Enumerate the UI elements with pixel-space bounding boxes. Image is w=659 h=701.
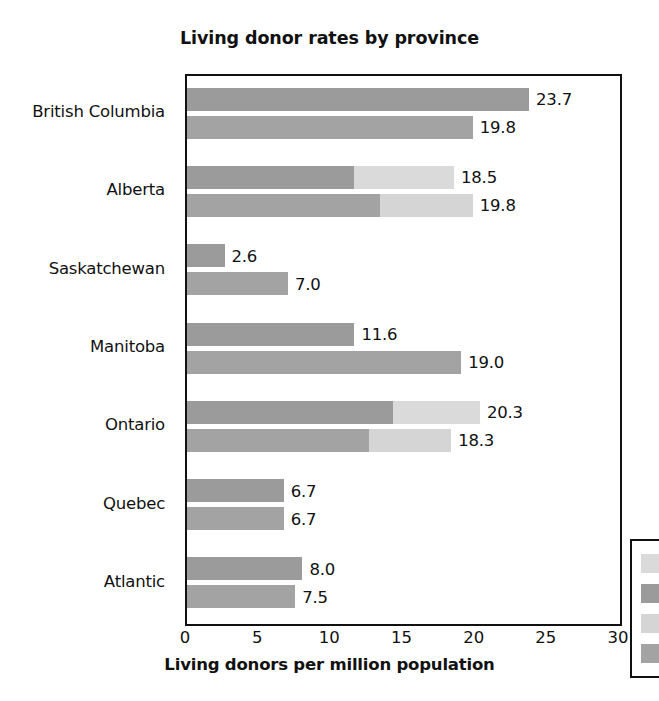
y-axis-label-manitoba: Manitoba	[0, 337, 165, 356]
bar-segment-liver-2016	[369, 429, 451, 452]
x-tick-label-20: 20	[463, 628, 484, 647]
bar-value-label: 8.0	[302, 559, 335, 578]
bar-segment-kidney-2016	[187, 116, 473, 139]
bar-segment-kidney-2015	[187, 244, 225, 267]
bar-value-label: 2.6	[225, 246, 258, 265]
bar-2015-atlantic: 8.0	[187, 557, 302, 580]
bar-segment-liver-2015	[393, 401, 480, 424]
y-axis-label-ontario: Ontario	[0, 415, 165, 434]
x-axis-ticks: 051015202530	[185, 628, 618, 652]
bar-segment-kidney-2016	[187, 351, 461, 374]
bar-segment-kidney-2015	[187, 479, 284, 502]
bar-value-label: 18.5	[454, 168, 497, 187]
chart-figure: Living donor rates by province British C…	[0, 0, 659, 701]
bar-2015-alberta: 18.5	[187, 166, 454, 189]
y-axis-label-atlantic: Atlantic	[0, 571, 165, 590]
bar-2015-manitoba: 11.6	[187, 323, 354, 346]
legend-swatch-icon	[641, 614, 659, 633]
bar-value-label: 19.8	[473, 118, 516, 137]
bar-value-label: 18.3	[451, 431, 494, 450]
legend-item-2015-kidney: 2015 (Kidney)	[641, 578, 659, 608]
bar-2015-british-columbia: 23.7	[187, 88, 529, 111]
y-axis-label-alberta: Alberta	[0, 180, 165, 199]
bar-2016-ontario: 18.3	[187, 429, 451, 452]
legend-item-2015-liver: 2015 (Liver)	[641, 548, 659, 578]
bar-2015-quebec: 6.7	[187, 479, 284, 502]
y-axis-label-quebec: Quebec	[0, 493, 165, 512]
bar-segment-kidney-2016	[187, 194, 380, 217]
bar-value-label: 19.8	[473, 196, 516, 215]
bar-segment-kidney-2015	[187, 323, 354, 346]
x-tick-label-10: 10	[319, 628, 340, 647]
bar-value-label: 6.7	[284, 509, 317, 528]
chart-title: Living donor rates by province	[0, 28, 659, 48]
legend-swatch-icon	[641, 584, 659, 603]
legend-item-2016-liver: 2016 (Liver)	[641, 608, 659, 638]
y-axis-label-british-columbia: British Columbia	[0, 102, 165, 121]
x-tick-label-0: 0	[180, 628, 191, 647]
bar-2016-british-columbia: 19.8	[187, 116, 473, 139]
bar-segment-kidney-2015	[187, 557, 302, 580]
bar-2016-saskatchewan: 7.0	[187, 272, 288, 295]
bar-segment-kidney-2016	[187, 429, 369, 452]
bar-segment-kidney-2015	[187, 401, 393, 424]
bar-2016-quebec: 6.7	[187, 507, 284, 530]
y-axis-category-labels: British ColumbiaAlbertaSaskatchewanManit…	[0, 74, 175, 622]
bar-2016-atlantic: 7.5	[187, 585, 295, 608]
bar-value-label: 11.6	[354, 325, 397, 344]
plot-frame: 23.719.818.519.82.67.011.619.020.318.36.…	[185, 74, 622, 626]
bar-segment-kidney-2015	[187, 166, 354, 189]
y-axis-label-saskatchewan: Saskatchewan	[0, 258, 165, 277]
bar-value-label: 23.7	[529, 90, 572, 109]
x-tick-label-25: 25	[535, 628, 556, 647]
bar-2016-manitoba: 19.0	[187, 351, 461, 374]
legend-swatch-icon	[641, 554, 659, 573]
bar-segment-kidney-2015	[187, 88, 529, 111]
bar-segment-liver-2016	[380, 194, 472, 217]
bar-segment-kidney-2016	[187, 507, 284, 530]
x-tick-label-15: 15	[391, 628, 412, 647]
plot-area: 23.719.818.519.82.67.011.619.020.318.36.…	[187, 76, 620, 624]
x-axis-label: Living donors per million population	[0, 655, 659, 674]
x-tick-label-5: 5	[252, 628, 263, 647]
x-tick-label-30: 30	[608, 628, 629, 647]
bar-2016-alberta: 19.8	[187, 194, 473, 217]
bar-value-label: 6.7	[284, 481, 317, 500]
bar-value-label: 7.5	[295, 587, 328, 606]
bar-segment-kidney-2016	[187, 272, 288, 295]
bar-segment-liver-2015	[354, 166, 454, 189]
bar-2015-ontario: 20.3	[187, 401, 480, 424]
bar-segment-kidney-2016	[187, 585, 295, 608]
bar-value-label: 7.0	[288, 274, 321, 293]
bar-value-label: 20.3	[480, 403, 523, 422]
bar-2015-saskatchewan: 2.6	[187, 244, 225, 267]
bar-value-label: 19.0	[461, 353, 504, 372]
